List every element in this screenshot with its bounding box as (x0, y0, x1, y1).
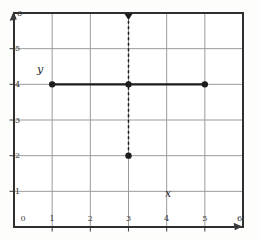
x-tick-label: 2 (88, 214, 93, 223)
y-tick-label: 1 (15, 187, 20, 196)
data-point (125, 81, 131, 87)
data-point (202, 81, 208, 87)
y-tick-label: 5 (15, 44, 20, 53)
x-tick-label: 3 (126, 214, 131, 223)
x-tick-label: 1 (50, 214, 55, 223)
x-axis-label: x (165, 188, 171, 199)
x-tick-label: 5 (202, 214, 207, 223)
x-tick-label: 0 (20, 214, 25, 223)
coordinate-plane-figure: 0123456123456 y x (0, 0, 259, 239)
y-tick-label: 6 (17, 9, 22, 18)
y-axis-label: y (37, 64, 43, 75)
x-tick-label: 4 (164, 214, 169, 223)
data-point (49, 81, 55, 87)
y-tick-label: 4 (15, 80, 20, 89)
data-point (125, 152, 131, 158)
y-tick-label: 3 (15, 116, 20, 125)
coordinate-grid: 0123456123456 (0, 0, 259, 239)
y-tick-label: 2 (15, 151, 20, 160)
x-tick-label: 6 (237, 214, 242, 223)
